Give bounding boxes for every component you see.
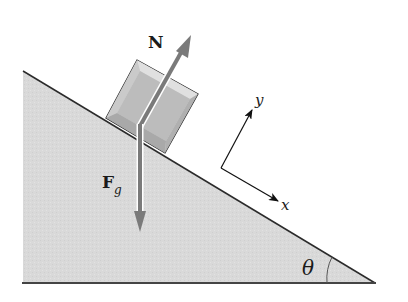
angle-theta-label: θ (302, 256, 314, 280)
axis-y-arrow (221, 110, 252, 168)
gravity-force-label-subscript: g (114, 183, 122, 197)
gravity-force-label-main: F (102, 172, 114, 192)
normal-force-label: N (148, 32, 164, 52)
inclined-plane (22, 71, 376, 283)
incline-diagram: θ N F g y x (0, 0, 408, 302)
axis-y-label: y (254, 91, 264, 109)
axis-x-label: x (281, 196, 290, 214)
coordinate-axes: y x (221, 91, 290, 214)
